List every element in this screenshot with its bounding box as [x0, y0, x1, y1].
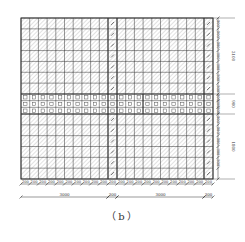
band-square: [189, 109, 192, 112]
band-square: [24, 102, 27, 105]
band-square: [76, 102, 79, 105]
dimension-label: 200: [31, 180, 39, 184]
band-square: [58, 96, 61, 99]
band-square: [163, 102, 166, 105]
band-square: [120, 102, 123, 105]
span-label: 300: [205, 192, 213, 197]
band-square: [120, 109, 123, 112]
band-square: [111, 102, 114, 105]
dimension-label: 200: [118, 180, 126, 184]
dimension-label: 200: [205, 180, 213, 184]
band-square: [128, 102, 131, 105]
band-square: [146, 102, 149, 105]
band-square: [93, 102, 96, 105]
band-square: [102, 102, 105, 105]
dimension-label: 200: [127, 180, 135, 184]
band-square: [198, 109, 201, 112]
band-square: [50, 102, 53, 105]
band-square: [50, 109, 53, 112]
dimension-label: 200: [83, 180, 91, 184]
band-square: [93, 96, 96, 99]
band-square: [128, 109, 131, 112]
dimension-label: 200: [48, 180, 56, 184]
band-square: [207, 109, 210, 112]
band-square: [24, 109, 27, 112]
band-square: [32, 96, 35, 99]
dimension-label: 300: [216, 148, 220, 156]
band-square: [67, 109, 70, 112]
band-square: [76, 96, 79, 99]
band-square: [58, 109, 61, 112]
band-square: [207, 96, 210, 99]
band-square: [172, 109, 175, 112]
dimension-label: 200: [161, 180, 169, 184]
band-square: [32, 109, 35, 112]
band-square: [41, 102, 44, 105]
band-square: [137, 109, 140, 112]
dimension-label: 200: [144, 180, 152, 184]
dimension-label: 200: [135, 180, 143, 184]
band-square: [163, 96, 166, 99]
band-square: [172, 102, 175, 105]
dimension-label: 300: [216, 127, 220, 135]
band-square: [154, 109, 157, 112]
band-square: [111, 96, 114, 99]
dimension-label: 200: [170, 180, 178, 184]
band-square: [181, 96, 184, 99]
band-square: [146, 96, 149, 99]
dimension-label: 300: [216, 159, 220, 167]
dimension-label: 300: [216, 74, 220, 82]
band-square: [93, 109, 96, 112]
band-square: [102, 109, 105, 112]
band-square: [137, 102, 140, 105]
band-square: [137, 96, 140, 99]
span-label: 2100: [231, 51, 236, 62]
band-square: [207, 102, 210, 105]
band-square: [181, 102, 184, 105]
dimension-label: 200: [57, 180, 65, 184]
band-square: [189, 96, 192, 99]
dimension-label: 200: [153, 180, 161, 184]
band-square: [85, 102, 88, 105]
dimension-label: 300: [216, 63, 220, 71]
band-square: [120, 96, 123, 99]
band-square: [76, 109, 79, 112]
dimension-label: 200: [179, 180, 187, 184]
dimension-label: 300: [216, 20, 220, 28]
structural-grid-diagram: 2002002002002002002002002002002002002002…: [0, 0, 245, 242]
dimension-label: 200: [39, 180, 47, 184]
dimension-label: 300: [216, 107, 220, 115]
span-label: 900: [231, 100, 236, 108]
dimension-label: 200: [196, 180, 204, 184]
dimension-label: 300: [216, 85, 220, 93]
band-square: [154, 102, 157, 105]
band-square: [85, 109, 88, 112]
band-square: [154, 96, 157, 99]
dimension-label: 300: [216, 53, 220, 61]
dimension-label: 200: [65, 180, 73, 184]
dimension-label: 200: [109, 180, 117, 184]
band-square: [102, 96, 105, 99]
band-square: [41, 109, 44, 112]
dimension-label: 300: [216, 42, 220, 50]
band-square: [128, 96, 131, 99]
dimension-label: 200: [74, 180, 82, 184]
band-square: [189, 102, 192, 105]
band-square: [198, 96, 201, 99]
dimension-label: 300: [216, 116, 220, 124]
band-square: [50, 96, 53, 99]
span-label: 300: [109, 192, 117, 197]
band-square: [41, 96, 44, 99]
band-square: [58, 102, 61, 105]
dimension-label: 200: [100, 180, 108, 184]
span-label: 1800: [231, 141, 236, 152]
dimension-label: 300: [216, 138, 220, 146]
band-square: [24, 96, 27, 99]
band-square: [32, 102, 35, 105]
band-square: [67, 102, 70, 105]
dimension-label: 200: [188, 180, 196, 184]
dimension-label: 200: [92, 180, 100, 184]
span-label: 3000: [59, 192, 70, 197]
band-square: [67, 96, 70, 99]
dimension-label: 300: [216, 31, 220, 39]
